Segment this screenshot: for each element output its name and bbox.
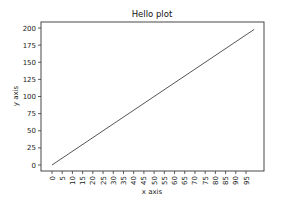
x-tick-label: 60 [171, 176, 179, 185]
x-axis-ticks: 05101520253035404550556065707580859095 [49, 171, 251, 185]
y-tick-label: 150 [23, 59, 36, 67]
x-tick-label: 35 [120, 176, 128, 185]
x-tick-label: 75 [202, 176, 210, 185]
chart-title: Hello plot [132, 9, 173, 19]
x-tick-label: 40 [130, 176, 138, 185]
x-tick-label: 70 [191, 176, 199, 185]
line-chart: Hello plot 0255075100125150175200 051015… [0, 0, 281, 206]
x-tick-label: 25 [100, 176, 108, 185]
x-tick-label: 95 [243, 176, 251, 185]
x-tick-label: 65 [181, 176, 189, 185]
x-tick-label: 20 [89, 176, 97, 185]
plot-frame [41, 22, 264, 171]
y-axis-ticks: 0255075100125150175200 [23, 25, 41, 170]
y-tick-label: 25 [27, 144, 36, 152]
y-tick-label: 0 [32, 162, 36, 170]
x-axis-label: x axis [142, 188, 163, 196]
x-tick-label: 10 [69, 176, 77, 185]
x-tick-label: 0 [49, 176, 57, 180]
x-tick-label: 55 [161, 176, 169, 185]
x-tick-label: 80 [212, 176, 220, 185]
x-tick-label: 85 [222, 176, 230, 185]
y-tick-label: 100 [23, 93, 36, 101]
y-axis-label: y axis [12, 85, 20, 106]
data-line [52, 29, 254, 165]
y-tick-label: 125 [23, 76, 36, 84]
x-tick-label: 50 [151, 176, 159, 185]
y-tick-label: 200 [23, 25, 36, 33]
y-tick-label: 50 [27, 127, 36, 135]
x-tick-label: 30 [110, 176, 118, 185]
x-tick-label: 45 [140, 176, 148, 185]
y-tick-label: 175 [23, 42, 36, 50]
x-tick-label: 90 [232, 176, 240, 185]
x-tick-label: 15 [79, 176, 87, 185]
x-tick-label: 5 [59, 176, 67, 180]
y-tick-label: 75 [27, 110, 36, 118]
